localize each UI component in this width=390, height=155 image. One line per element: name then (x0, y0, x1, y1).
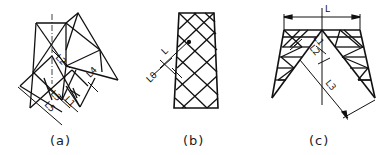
label-a-L1: L1 (63, 94, 78, 109)
caption-b: (b) (183, 133, 204, 148)
label-b-L: L (159, 46, 170, 57)
diagram-canvas: L2 L3 L1 L4 L5 (0, 0, 390, 155)
label-a-L4: L4 (84, 65, 99, 80)
caption-a: (a) (50, 133, 71, 148)
label-c-L: L (325, 4, 330, 14)
figure-a-drawing (18, 13, 118, 125)
figure-b-drawing (152, 13, 218, 108)
caption-c: (c) (309, 133, 329, 148)
figure-c-drawing (272, 8, 375, 118)
